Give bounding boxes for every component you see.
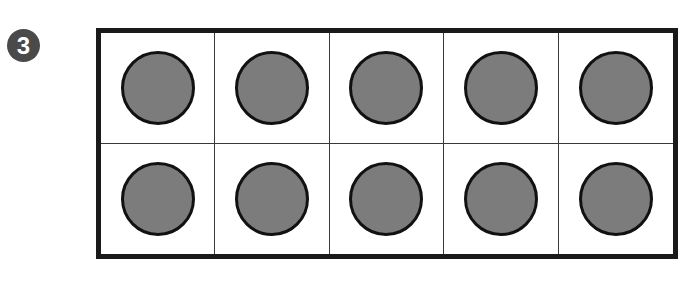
- counter-circle: [121, 162, 195, 236]
- ten-frame-cell: [215, 144, 329, 255]
- counter-circle: [464, 162, 538, 236]
- counter-circle: [349, 51, 423, 125]
- counter-circle: [235, 162, 309, 236]
- ten-frame-cell: [330, 33, 444, 144]
- counter-circle: [464, 51, 538, 125]
- counter-circle: [349, 162, 423, 236]
- ten-frame-cell: [559, 33, 673, 144]
- ten-frame-cell: [215, 33, 329, 144]
- ten-frame-cell: [444, 33, 558, 144]
- ten-frame-cell: [559, 144, 673, 255]
- ten-frame-cell: [101, 33, 215, 144]
- ten-frame: [96, 28, 678, 259]
- counter-circle: [121, 51, 195, 125]
- ten-frame-cell: [444, 144, 558, 255]
- counter-circle: [579, 51, 653, 125]
- ten-frame-cell: [330, 144, 444, 255]
- ten-frame-cell: [101, 144, 215, 255]
- counter-circle: [235, 51, 309, 125]
- counter-circle: [579, 162, 653, 236]
- problem-number-badge: 3: [7, 29, 40, 62]
